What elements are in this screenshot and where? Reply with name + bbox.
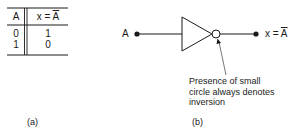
annotation-pointer-line xyxy=(219,42,226,75)
annotation-line-1: Presence of small xyxy=(189,76,275,87)
caption-b: (b) xyxy=(192,117,203,127)
buffer-triangle-icon xyxy=(182,17,212,51)
header-output: x = A xyxy=(29,12,67,22)
annotation-line-2: circle always denotes xyxy=(189,87,275,98)
row-0-output: 1 xyxy=(29,29,67,39)
output-label-prefix: x = xyxy=(265,28,281,39)
header-output-prefix: x = xyxy=(37,11,53,22)
caption-a: (a) xyxy=(27,117,38,127)
output-label-var: A xyxy=(281,28,288,39)
row-0-input: 0 xyxy=(9,29,23,39)
output-label: x = A xyxy=(265,28,288,40)
inverter-circuit xyxy=(134,17,258,75)
header-input: A xyxy=(9,12,23,22)
row-1-output: 0 xyxy=(29,40,67,50)
input-label: A xyxy=(122,28,129,40)
annotation-arrowhead-icon xyxy=(217,39,222,45)
inversion-annotation: Presence of small circle always denotes … xyxy=(189,76,275,108)
row-1-input: 1 xyxy=(9,40,23,50)
output-terminal-dot xyxy=(253,31,258,36)
inversion-bubble-icon xyxy=(212,30,220,38)
annotation-line-3: inversion xyxy=(189,97,275,108)
header-output-var: A xyxy=(53,11,60,22)
